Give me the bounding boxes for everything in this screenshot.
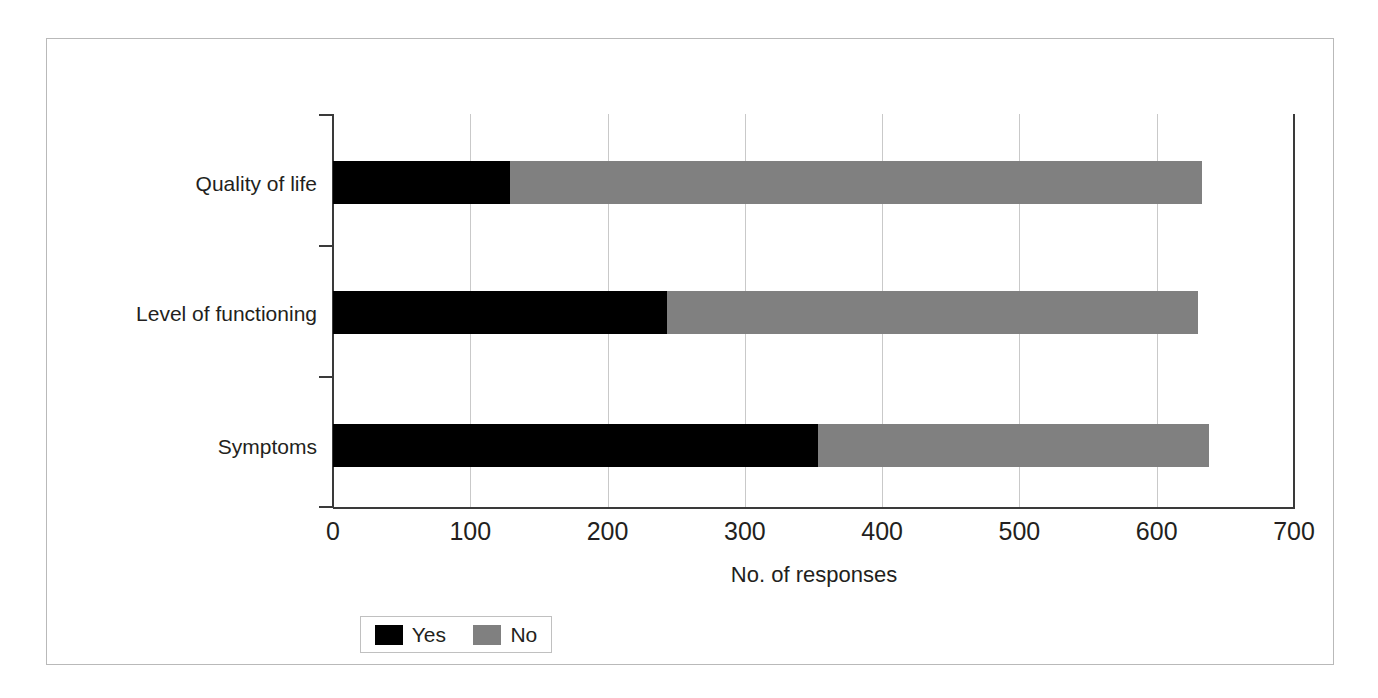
y-axis-tick xyxy=(319,506,333,508)
y-axis-tick xyxy=(319,114,333,116)
bar-row xyxy=(333,161,1202,204)
x-tick-label-400: 400 xyxy=(842,517,922,546)
x-tick-label-0: 0 xyxy=(293,517,373,546)
x-tick-label-700: 700 xyxy=(1254,517,1334,546)
bar-row xyxy=(333,424,1209,467)
bar-segment-no xyxy=(510,161,1202,204)
legend-label-no: No xyxy=(510,624,537,645)
y-axis-tick xyxy=(319,245,333,247)
x-axis-line xyxy=(333,507,1295,509)
legend-swatch-no xyxy=(473,625,501,645)
x-axis-right-cap xyxy=(1293,114,1295,508)
category-label-quality-of-life: Quality of life xyxy=(0,172,317,196)
x-tick-label-500: 500 xyxy=(979,517,1059,546)
x-tick-label-600: 600 xyxy=(1117,517,1197,546)
legend-label-yes: Yes xyxy=(412,624,446,645)
category-label-level-of-functioning: Level of functioning xyxy=(0,302,317,326)
bar-segment-yes xyxy=(333,161,510,204)
x-axis-title: No. of responses xyxy=(333,562,1295,588)
legend: Yes No xyxy=(360,616,552,653)
bar-segment-no xyxy=(667,291,1198,334)
legend-item-yes: Yes xyxy=(375,624,446,645)
x-tick-label-300: 300 xyxy=(705,517,785,546)
bar-segment-no xyxy=(818,424,1209,467)
legend-item-no: No xyxy=(473,624,537,645)
bar-segment-yes xyxy=(333,291,667,334)
category-label-symptoms: Symptoms xyxy=(0,435,317,459)
figure-frame: Quality of life Level of functioning Sym… xyxy=(46,38,1334,665)
bar-row xyxy=(333,291,1198,334)
y-axis-tick xyxy=(319,376,333,378)
legend-swatch-yes xyxy=(375,625,403,645)
x-tick-label-100: 100 xyxy=(430,517,510,546)
bar-segment-yes xyxy=(333,424,818,467)
x-tick-label-200: 200 xyxy=(568,517,648,546)
